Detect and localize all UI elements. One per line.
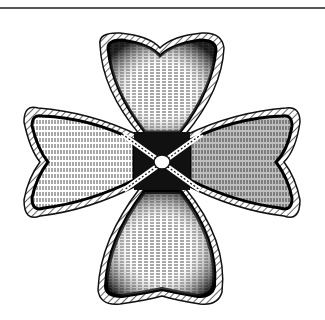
cross-illustration (0, 0, 325, 320)
cross-arm-left (24, 107, 138, 217)
center-knot (122, 132, 202, 190)
cross-arm-bottom (98, 188, 223, 304)
cross-arm-top (100, 33, 224, 135)
cross-arm-right (186, 108, 300, 218)
